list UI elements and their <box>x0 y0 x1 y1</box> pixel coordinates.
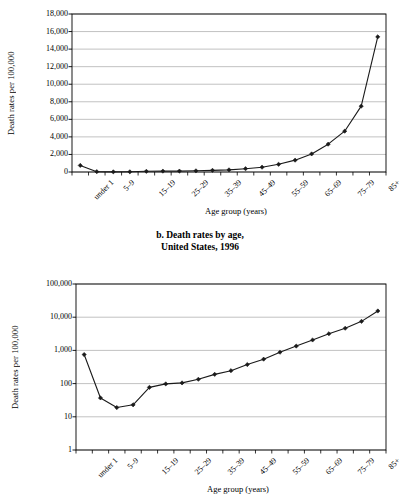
caption-line-2: United States, 1996 <box>0 242 400 254</box>
figure-caption: b. Death rates by age, United States, 19… <box>0 230 400 253</box>
x-axis-title: Age group (years) <box>38 484 400 494</box>
x-axis-title: Age group (years) <box>36 206 400 216</box>
caption-line-1: b. Death rates by age, <box>0 230 400 242</box>
chart-log-death-rates: Death rates per 100,000 1101001,00010,00… <box>0 268 400 496</box>
chart-linear-death-rates: Death rates per 100,000 02,0004,0006,000… <box>0 0 400 222</box>
